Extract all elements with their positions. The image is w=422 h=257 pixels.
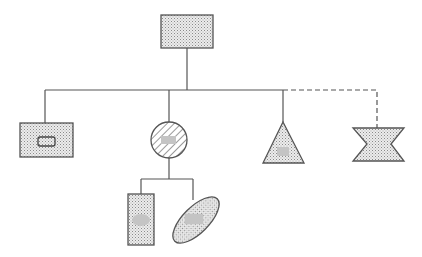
root-rectangle: [161, 15, 213, 48]
edge-child-4-dashed: [283, 90, 377, 128]
node-child-2: [151, 122, 187, 158]
node-child-4: [353, 128, 404, 161]
grandchild-2-inner-patch: [185, 214, 203, 224]
grandchild-1-inner-patch: [132, 214, 150, 226]
node-root: [161, 15, 213, 48]
hierarchy-diagram: [0, 0, 422, 257]
node-grandchild-1: [128, 194, 154, 245]
node-child-3: [263, 122, 304, 163]
child-1-inner-rectangle: [38, 137, 55, 146]
connectors: [45, 48, 377, 200]
node-child-1: [20, 123, 73, 157]
child-2-inner-patch: [161, 136, 176, 144]
child-3-triangle: [263, 122, 304, 163]
child-4-hourglass: [353, 128, 404, 161]
child-3-inner-patch: [277, 147, 289, 156]
node-grandchild-2: [166, 190, 227, 251]
